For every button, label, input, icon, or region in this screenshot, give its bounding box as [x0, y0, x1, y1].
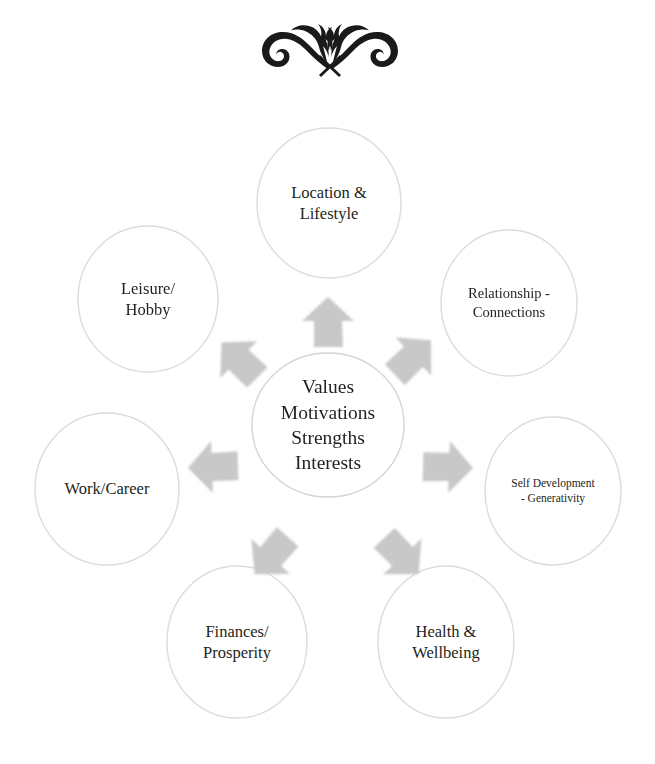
circle-work-career: [35, 413, 179, 565]
circle-finances-prosperity: [167, 566, 307, 718]
page-root: Values Motivations Strengths Interests L…: [0, 0, 655, 764]
circle-self-development: [485, 417, 621, 565]
circle-center-core: [252, 353, 404, 497]
flourish-divider-icon: [245, 16, 415, 78]
arrow-to-work-career: [187, 440, 239, 494]
circle-relationship-connections: [441, 230, 577, 376]
arrow-to-location-lifestyle: [302, 297, 354, 347]
circle-health-wellbeing: [378, 566, 514, 718]
circle-leisure-hobby: [78, 226, 218, 372]
life-domains-diagram: Values Motivations Strengths Interests L…: [0, 95, 655, 755]
circle-location-lifestyle: [257, 128, 401, 278]
arrow-to-self-development: [422, 440, 474, 494]
